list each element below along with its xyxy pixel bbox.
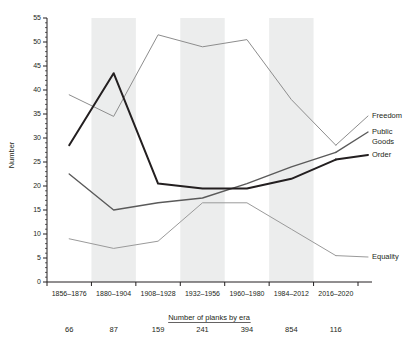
y-tick-label: 35 — [33, 110, 41, 117]
era-band — [269, 18, 313, 282]
legend-label-equality: Equality — [372, 252, 399, 261]
x-tick-label: 1984–2012 — [274, 290, 309, 297]
y-tick-label: 0 — [37, 278, 41, 285]
plank-count-label: 159 — [152, 325, 165, 334]
x-axis — [47, 282, 372, 286]
y-tick-label: 50 — [33, 38, 41, 45]
x-tick-label: 1908–1928 — [141, 290, 176, 297]
legend-leader-line — [336, 132, 368, 152]
y-tick-label: 25 — [33, 158, 41, 165]
x-axis-title: Number of planks by era — [168, 313, 251, 322]
legend-leader-line — [336, 155, 368, 160]
legend-leader-line — [336, 256, 368, 257]
y-tick-label: 10 — [33, 230, 41, 237]
legend-label-order: Order — [372, 150, 392, 159]
x-tick-label: 1960–1980 — [229, 290, 264, 297]
y-tick-label: 15 — [33, 206, 41, 213]
plank-count-label: 87 — [109, 325, 117, 334]
x-axis-ticks — [47, 282, 358, 286]
plank-count-label: 854 — [285, 325, 298, 334]
y-tick-label: 20 — [33, 182, 41, 189]
legend-label-public-goods: Public — [372, 127, 393, 136]
x-axis-tick-labels: 1856–18761880–19041908–19281932–19561960… — [52, 290, 354, 297]
chart-legend: FreedomPublicGoodsOrderEquality — [336, 111, 402, 261]
x-tick-label: 1856–1876 — [52, 290, 87, 297]
x-tick-label: 1932–1956 — [185, 290, 220, 297]
y-axis: 0510152025303540455055 — [33, 14, 47, 285]
line-chart: 0510152025303540455055 1856–18761880–190… — [0, 0, 419, 349]
legend-label-freedom: Freedom — [372, 111, 402, 120]
plank-count-label: 394 — [241, 325, 254, 334]
era-band — [91, 18, 135, 282]
y-tick-label: 30 — [33, 134, 41, 141]
legend-leader-line — [336, 116, 368, 145]
y-axis-ticks: 0510152025303540455055 — [33, 14, 47, 285]
x-tick-label: 2016–2020 — [318, 290, 353, 297]
era-shaded-bands — [91, 18, 313, 282]
legend-label-public-goods-line2: Goods — [372, 137, 394, 146]
plank-count-labels: 6687159241394854116 — [65, 325, 342, 334]
y-tick-label: 55 — [33, 14, 41, 21]
y-tick-label: 40 — [33, 86, 41, 93]
chart-container: 0510152025303540455055 1856–18761880–190… — [0, 0, 419, 349]
plank-count-label: 66 — [65, 325, 73, 334]
plank-count-label: 116 — [330, 325, 342, 334]
y-tick-label: 45 — [33, 62, 41, 69]
plank-count-label: 241 — [196, 325, 209, 334]
x-tick-label: 1880–1904 — [96, 290, 131, 297]
era-band — [180, 18, 224, 282]
y-tick-label: 5 — [37, 254, 41, 261]
y-axis-title: Number — [7, 141, 16, 168]
